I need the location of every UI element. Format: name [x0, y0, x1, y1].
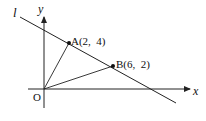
point-B	[111, 64, 115, 68]
line-l-label: l	[13, 5, 17, 20]
origin-label: O	[33, 91, 41, 103]
y-axis-label: y	[37, 2, 44, 16]
point-A-label: A(2, 4)	[71, 35, 106, 48]
coordinate-diagram: l y x O A(2, 4) B(6, 2)	[0, 0, 206, 121]
x-axis-label: x	[192, 84, 199, 98]
point-B-label: B(6, 2)	[116, 58, 150, 71]
line-l	[20, 17, 176, 103]
